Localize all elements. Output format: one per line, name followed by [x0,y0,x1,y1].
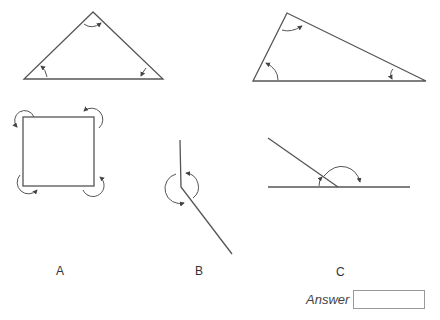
figure-c-straight-line-angles [268,138,410,187]
answer-input[interactable] [353,290,425,309]
angle-arrow-right [391,69,393,79]
angle-arrow-left [266,63,278,80]
angle-arrow-obtuse [324,166,360,182]
label-b: B [195,264,203,278]
label-a: A [56,264,64,278]
angle-arrow-reflex-right [186,173,198,198]
label-c: C [336,265,345,279]
angle-arrow-bottom-left [17,175,37,194]
angle-arrow-left [41,66,47,77]
triangle-isosceles [24,12,163,79]
answer-label: Answer [306,292,349,307]
angle-arrow-apex [84,23,101,27]
figure-b-reflex-angle [165,140,232,254]
angle-arrow-right [141,68,146,76]
angle-arrow-top-left [15,111,34,127]
triangle-scalene [253,13,426,81]
angle-arrow-top [282,26,302,31]
figures-canvas [0,0,440,320]
angle-arrow-acute [319,177,322,186]
figure-a-square [15,108,104,196]
